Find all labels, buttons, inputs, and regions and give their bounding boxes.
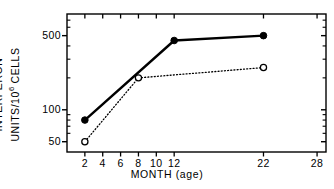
y-axis-tick-label: 500	[42, 29, 61, 41]
x-axis-tick-label: 12	[154, 157, 194, 169]
x-axis-label: MONTH (age)	[0, 168, 334, 180]
data-point-dotted-open	[82, 139, 88, 145]
data-point-dotted-open	[135, 75, 141, 81]
data-point-solid-filled	[171, 37, 178, 44]
x-axis-tick-label: 22	[243, 157, 283, 169]
chart-figure: INTERFERON UNITS/106 CELLS MONTH (age) 5…	[0, 0, 334, 189]
x-axis-tick-label: 28	[297, 157, 334, 169]
y-axis-tick-label: 100	[42, 103, 61, 115]
data-point-solid-filled	[82, 117, 89, 124]
series-line-dotted-open	[85, 68, 264, 142]
y-axis-tick-label: 50	[49, 135, 61, 147]
data-point-dotted-open	[260, 64, 266, 70]
data-point-solid-filled	[260, 32, 267, 39]
axis-frame	[67, 14, 326, 152]
series-line-solid-filled	[85, 36, 264, 120]
